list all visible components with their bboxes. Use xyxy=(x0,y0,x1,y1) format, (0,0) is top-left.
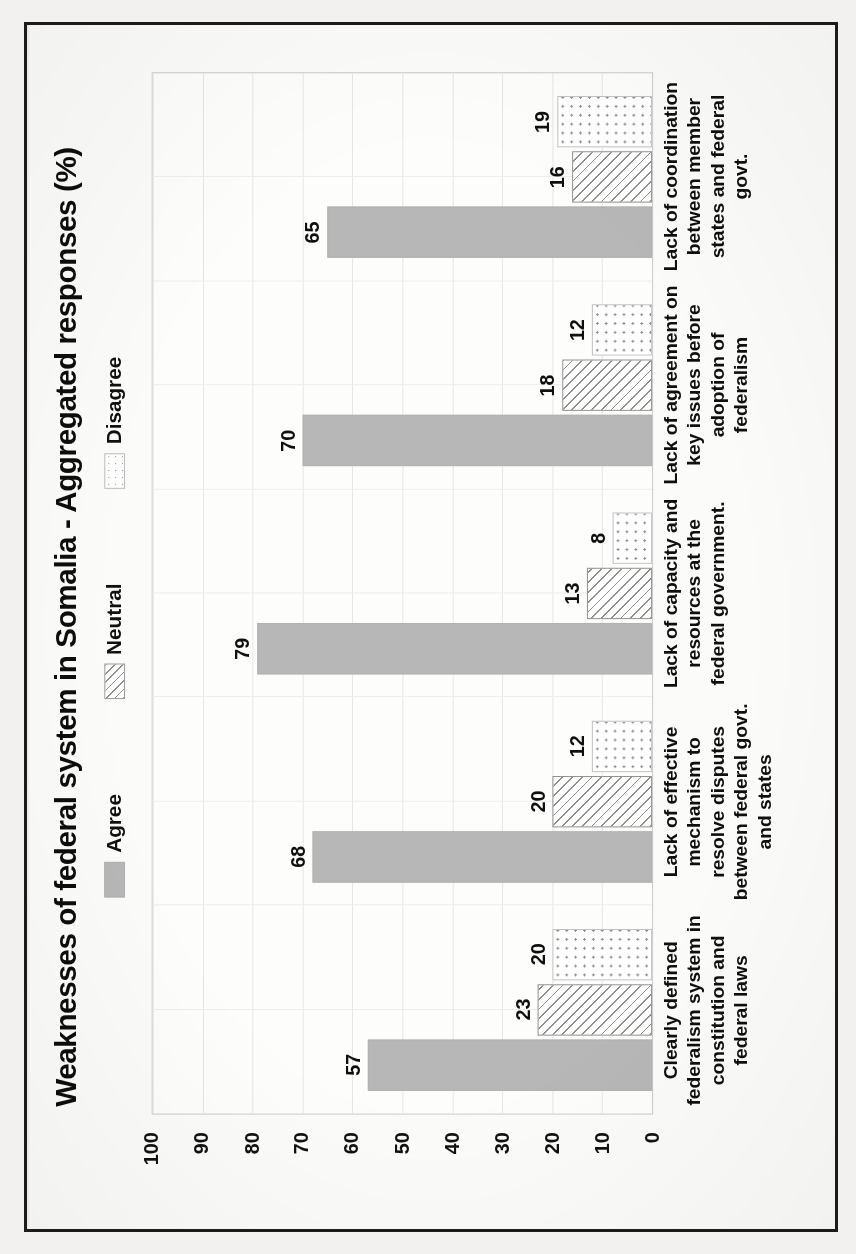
bar-neutral[interactable]: 16 xyxy=(572,152,652,203)
y-axis-tick-label: 10 xyxy=(592,1132,615,1154)
bar-slot: 16 xyxy=(153,152,652,203)
bar-disagree[interactable]: 19 xyxy=(557,96,652,147)
y-axis-tick-label: 20 xyxy=(541,1132,564,1154)
y-axis-tick-label: 70 xyxy=(291,1132,314,1154)
bar-agree[interactable]: 68 xyxy=(312,831,652,882)
bar-disagree[interactable]: 8 xyxy=(612,513,652,564)
category-label: Clearly defined federalism system in con… xyxy=(659,906,797,1114)
y-axis-tick-label: 50 xyxy=(391,1132,414,1154)
bar-agree[interactable]: 70 xyxy=(303,415,653,466)
y-axis-tick-label: 80 xyxy=(241,1132,264,1154)
legend-label-agree: Agree xyxy=(102,794,126,853)
legend-item-neutral[interactable]: Neutral xyxy=(102,583,126,699)
legend-swatch-neutral-icon xyxy=(104,664,125,700)
y-axis-tick-label: 0 xyxy=(642,1132,665,1143)
y-axis-tick-label: 90 xyxy=(190,1132,213,1154)
category-label: Lack of capacity and resources at the fe… xyxy=(659,489,797,697)
plot-area: 57232068201279138701812651619 xyxy=(152,72,653,1114)
bar-slot: 79 xyxy=(153,623,652,674)
bar-neutral[interactable]: 18 xyxy=(562,360,652,411)
bar-neutral[interactable]: 23 xyxy=(537,984,652,1035)
y-axis-tick-label: 30 xyxy=(491,1132,514,1154)
bar-value-label: 18 xyxy=(537,374,560,396)
bar-slot: 68 xyxy=(153,831,652,882)
bar-group: 682012 xyxy=(153,697,652,905)
bar-value-label: 68 xyxy=(287,846,310,868)
bar-value-label: 79 xyxy=(232,638,255,660)
legend-swatch-disagree-icon xyxy=(104,453,125,489)
bar-value-label: 20 xyxy=(527,791,550,813)
bar-slot: 70 xyxy=(153,415,652,466)
legend-item-disagree[interactable]: Disagree xyxy=(102,357,126,489)
bar-slot: 13 xyxy=(153,568,652,619)
category-label: Lack of agreement on key issues before a… xyxy=(659,281,797,489)
y-axis-tick-label: 100 xyxy=(140,1132,163,1165)
y-axis: 0102030405060708090100 xyxy=(152,1119,653,1210)
legend-label-disagree: Disagree xyxy=(102,357,126,445)
bar-value-label: 13 xyxy=(562,582,585,604)
bar-slot: 23 xyxy=(153,984,652,1035)
bar-agree[interactable]: 65 xyxy=(327,207,652,258)
bar-value-label: 57 xyxy=(342,1054,365,1076)
bar-value-label: 8 xyxy=(586,533,609,544)
scanned-page: Weaknesses of federal system in Somalia … xyxy=(0,0,856,1254)
bar-value-label: 19 xyxy=(532,111,555,133)
bar-groups: 57232068201279138701812651619 xyxy=(153,73,652,1113)
bar-neutral[interactable]: 13 xyxy=(587,568,652,619)
bar-group: 572320 xyxy=(153,906,652,1114)
bar-value-label: 65 xyxy=(302,222,325,244)
chart-legend: Agree Neutral Disagree xyxy=(102,45,126,1210)
bar-value-label: 70 xyxy=(277,430,300,452)
legend-item-agree[interactable]: Agree xyxy=(102,794,126,897)
page-border-frame: Weaknesses of federal system in Somalia … xyxy=(24,22,838,1232)
legend-label-neutral: Neutral xyxy=(102,583,126,654)
bar-value-label: 23 xyxy=(512,999,535,1021)
bar-slot: 12 xyxy=(153,721,652,772)
bar-slot: 65 xyxy=(153,207,652,258)
bar-neutral[interactable]: 20 xyxy=(552,776,652,827)
bar-slot: 8 xyxy=(153,513,652,564)
bar-value-label: 12 xyxy=(566,735,589,757)
category-label: Lack of effective mechanism to resolve d… xyxy=(659,698,797,906)
x-axis-category-labels: Clearly defined federalism system in con… xyxy=(659,72,797,1114)
category-label: Lack of coordination between member stat… xyxy=(659,72,797,280)
y-axis-tick-label: 40 xyxy=(441,1132,464,1154)
bar-slot: 20 xyxy=(153,776,652,827)
bar-chart-figure: Weaknesses of federal system in Somalia … xyxy=(41,45,821,1210)
bar-disagree[interactable]: 20 xyxy=(552,929,652,980)
bar-agree[interactable]: 57 xyxy=(367,1039,652,1090)
bar-slot: 12 xyxy=(153,304,652,355)
bar-slot: 18 xyxy=(153,360,652,411)
legend-swatch-agree-icon xyxy=(104,862,125,898)
bar-group: 79138 xyxy=(153,489,652,697)
bar-group: 701812 xyxy=(153,281,652,489)
y-axis-tick-label: 60 xyxy=(341,1132,364,1154)
bar-slot: 20 xyxy=(153,929,652,980)
bar-disagree[interactable]: 12 xyxy=(592,721,652,772)
bar-slot: 57 xyxy=(153,1039,652,1090)
bar-value-label: 12 xyxy=(566,319,589,341)
bar-value-label: 16 xyxy=(547,166,570,188)
bar-slot: 19 xyxy=(153,96,652,147)
chart-title: Weaknesses of federal system in Somalia … xyxy=(49,45,83,1210)
bar-agree[interactable]: 79 xyxy=(258,623,653,674)
rotated-figure-wrapper: Weaknesses of federal system in Somalia … xyxy=(41,45,821,1210)
bar-group: 651619 xyxy=(153,73,652,281)
bar-disagree[interactable]: 12 xyxy=(592,304,652,355)
bar-value-label: 20 xyxy=(527,943,550,965)
